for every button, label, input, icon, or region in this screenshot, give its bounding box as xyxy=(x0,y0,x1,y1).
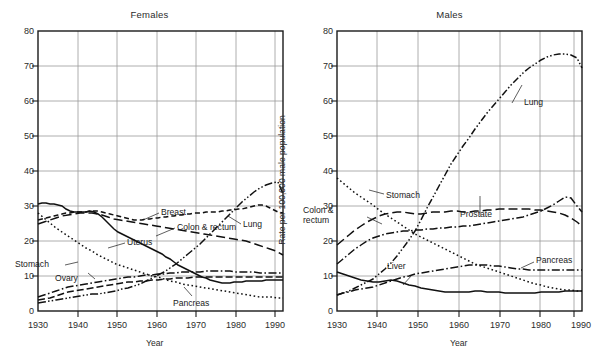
series-lung xyxy=(38,182,283,303)
annotation-colon-rectum: Colon & rectum xyxy=(177,222,236,232)
annotation-colon-rectum: Colon & rectum xyxy=(303,206,334,225)
annotation-colon-rectum-line2: rectum xyxy=(303,216,334,226)
annotation-lung: Lung xyxy=(243,219,262,229)
annotation-pancreas: Pancreas xyxy=(536,255,572,265)
annotation-stomach: Stomach xyxy=(386,190,420,200)
plot-svg-males xyxy=(300,0,599,359)
annotation-stomach: Stomach xyxy=(15,259,49,269)
annotation-breast: Breast xyxy=(161,207,186,217)
annotation-liver: Liver xyxy=(387,261,406,271)
gridlines xyxy=(337,31,582,311)
series-stomach xyxy=(337,178,582,291)
annotation-prostate: Prostate xyxy=(460,209,492,219)
annotation-lung: Lung xyxy=(524,97,543,107)
series-prostate xyxy=(337,197,582,264)
series-liver xyxy=(337,272,582,293)
annotation-ovary: Ovary xyxy=(55,273,78,283)
chart-panel-females: Females Rate per 100,000 female populati… xyxy=(0,0,299,359)
gridlines xyxy=(38,31,283,311)
y-axis-label-males: Rate per 100,000 male population xyxy=(277,115,287,244)
leader-lines xyxy=(367,85,534,285)
series-pancreas xyxy=(337,265,582,295)
plot-svg-females xyxy=(0,0,299,359)
annotation-pancreas: Pancreas xyxy=(173,298,209,308)
chart-panel-males: Males Rate per 100,000 male population 8… xyxy=(300,0,599,359)
annotation-uterus: Uterus xyxy=(127,237,152,247)
